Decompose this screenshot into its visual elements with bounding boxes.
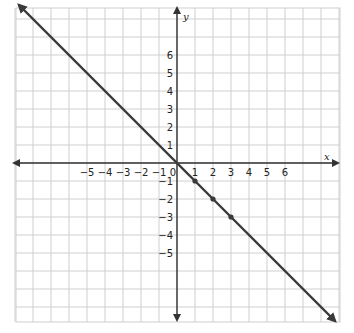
x-tick-label: −5 [80, 167, 95, 178]
x-axis-label: x [324, 151, 330, 162]
x-tick-label: 3 [228, 167, 234, 178]
x-tick-label: −4 [98, 167, 113, 178]
coordinate-plane: −5−4−3−2−10123456 654321−1−2−3−4−5 x y [0, 0, 354, 333]
data-point [228, 214, 233, 219]
data-point [210, 196, 215, 201]
y-tick-label: 2 [167, 122, 173, 133]
y-tick-label: −2 [158, 194, 173, 205]
y-tick-label: −1 [158, 176, 173, 187]
data-point [192, 178, 197, 183]
y-tick-label: 5 [167, 68, 173, 79]
y-tick-labels: 654321−1−2−3−4−5 [158, 50, 173, 259]
x-tick-label: −2 [134, 167, 149, 178]
y-tick-label: −5 [158, 248, 173, 259]
y-tick-label: −3 [158, 212, 173, 223]
x-tick-label: −3 [116, 167, 131, 178]
x-tick-label: 2 [210, 167, 216, 178]
y-axis-label: y [182, 11, 189, 22]
x-tick-label: 5 [264, 167, 270, 178]
y-tick-label: 4 [167, 86, 173, 97]
x-tick-label: 1 [192, 167, 198, 178]
y-tick-label: −4 [158, 230, 173, 241]
x-tick-label: 6 [282, 167, 288, 178]
x-tick-label: 4 [246, 167, 252, 178]
y-tick-label: 3 [167, 104, 173, 115]
y-tick-label: 6 [167, 50, 173, 61]
y-tick-label: 1 [167, 140, 173, 151]
